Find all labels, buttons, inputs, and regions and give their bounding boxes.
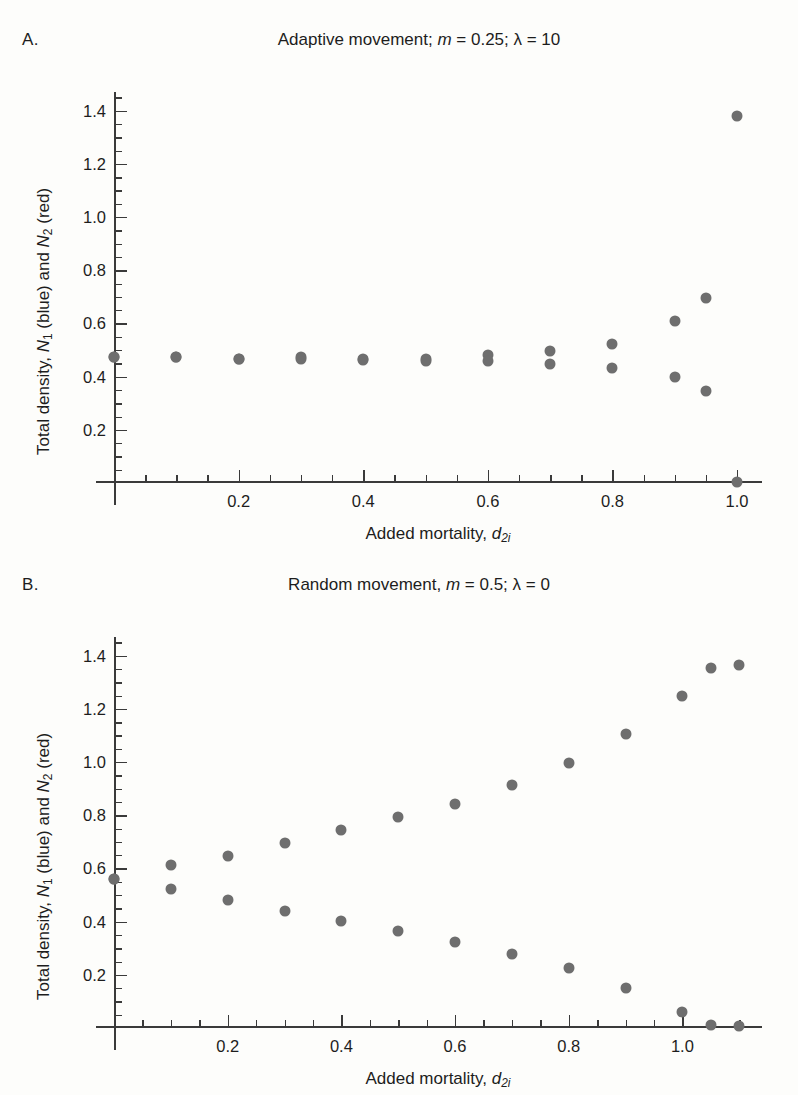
y-tick-label: 0.2: [62, 420, 106, 439]
y-axis-title-prefix: Total density,: [34, 897, 53, 1000]
data-point: [669, 372, 680, 383]
y-tick-minor: [115, 297, 122, 298]
x-tick-minor: [427, 1020, 428, 1027]
y-tick-major: [115, 656, 127, 657]
x-axis-title-subscript: 2i: [501, 531, 510, 545]
y-tick-minor: [115, 443, 122, 444]
y-tick-minor: [115, 456, 122, 457]
figure-page: A. Adaptive movement; m = 0.25; λ = 10 0…: [0, 0, 798, 1095]
y-axis-title-n1: N: [34, 340, 53, 352]
y-tick-label: 0.8: [62, 261, 106, 280]
panel-b-title-m: m: [446, 575, 460, 594]
data-point: [545, 359, 556, 370]
panel-a-y-axis-title: Total density, N1 (blue) and N2 (red): [34, 188, 55, 455]
x-tick-minor: [270, 475, 271, 482]
data-point: [563, 757, 574, 768]
x-tick-label: 1.0: [671, 1037, 694, 1056]
data-point: [734, 1020, 745, 1031]
x-tick-minor: [426, 475, 427, 482]
y-tick-major: [115, 868, 127, 869]
data-point: [620, 982, 631, 993]
y-tick-minor: [115, 789, 122, 790]
y-tick-minor: [115, 137, 122, 138]
y-tick-minor: [115, 124, 122, 125]
panel-a-x-axis-title: Added mortality, d2i: [114, 524, 762, 545]
x-tick-major: [239, 470, 240, 482]
y-tick-minor: [115, 284, 122, 285]
x-tick-minor: [398, 1020, 399, 1027]
y-tick-minor: [115, 230, 122, 231]
panel-a: A. Adaptive movement; m = 0.25; λ = 10 0…: [0, 0, 798, 545]
y-tick-major: [115, 922, 127, 923]
panel-b-title-lambda-icon: λ: [513, 575, 522, 594]
x-tick-minor: [171, 1020, 172, 1027]
y-tick-label: 0.6: [62, 859, 106, 878]
y-tick-major: [115, 709, 127, 710]
y-tick-major: [115, 975, 127, 976]
data-point: [336, 915, 347, 926]
data-point: [358, 355, 369, 366]
data-point: [677, 690, 688, 701]
x-tick-minor: [394, 475, 395, 482]
y-tick-minor: [115, 470, 122, 471]
x-tick-minor: [285, 1020, 286, 1027]
data-point: [677, 1006, 688, 1017]
y-tick-minor: [115, 417, 122, 418]
y-axis-title-n2: N: [34, 235, 53, 247]
x-tick-minor: [207, 475, 208, 482]
panel-a-title: Adaptive movement; m = 0.25; λ = 10: [0, 30, 798, 50]
y-tick-label: 1.0: [62, 753, 106, 772]
y-axis-title-mid: (blue) and: [34, 792, 53, 878]
y-tick-major: [115, 217, 127, 218]
y-tick-minor: [115, 151, 122, 152]
x-axis-title-var: d: [492, 1069, 501, 1088]
y-tick-minor: [115, 802, 122, 803]
y-tick-major: [115, 762, 127, 763]
y-axis-title-suffix: (red): [34, 733, 53, 774]
panel-a-title-lambda-value: = 10: [522, 30, 560, 49]
y-tick-label: 0.4: [62, 367, 106, 386]
panel-a-title-lambda-icon: λ: [514, 30, 523, 49]
panel-b-y-axis-title: Total density, N1 (blue) and N2 (red): [34, 733, 55, 1000]
x-tick-minor: [199, 1020, 200, 1027]
x-tick-label: 0.2: [216, 1037, 239, 1056]
y-tick-major: [115, 270, 127, 271]
y-tick-minor: [115, 97, 122, 98]
x-tick-minor: [332, 475, 333, 482]
data-point: [450, 799, 461, 810]
x-tick-minor: [626, 1020, 627, 1027]
data-point: [506, 949, 517, 960]
y-tick-label: 1.4: [62, 646, 106, 665]
panel-b-x-axis-title: Added mortality, d2i: [114, 1069, 762, 1090]
panel-b-title: Random movement, m = 0.5; λ = 0: [0, 575, 798, 595]
y-tick-minor: [115, 855, 122, 856]
data-point: [393, 926, 404, 937]
x-tick-minor: [644, 475, 645, 482]
x-axis-title-prefix: Added mortality,: [365, 524, 491, 543]
y-tick-minor: [115, 829, 122, 830]
x-tick-minor: [457, 475, 458, 482]
x-tick-minor: [142, 1020, 143, 1027]
x-tick-minor: [145, 475, 146, 482]
y-tick-major: [115, 164, 127, 165]
y-axis-title-mid: (blue) and: [34, 247, 53, 333]
x-tick-major: [363, 470, 364, 482]
data-point: [165, 884, 176, 895]
panel-a-plot-area: 0.20.40.60.81.01.21.4 0.20.40.60.81.0 Ad…: [114, 92, 762, 483]
y-tick-label: 0.4: [62, 912, 106, 931]
y-tick-minor: [115, 204, 122, 205]
x-axis-title-prefix: Added mortality,: [365, 1069, 491, 1088]
data-point: [506, 780, 517, 791]
x-tick-label: 0.6: [476, 492, 499, 511]
panel-b-y-ticks: 0.20.40.60.81.01.21.4: [114, 637, 762, 1028]
data-point: [295, 353, 306, 364]
x-tick-minor: [675, 475, 676, 482]
panel-a-y-axis-extension: [114, 483, 116, 505]
data-point: [450, 937, 461, 948]
y-tick-minor: [115, 842, 122, 843]
y-tick-label: 1.0: [62, 208, 106, 227]
y-axis-title-suffix: (red): [34, 188, 53, 229]
data-point: [109, 873, 120, 884]
panel-b: B. Random movement, m = 0.5; λ = 0 0.20.…: [0, 545, 798, 1095]
data-point: [336, 824, 347, 835]
